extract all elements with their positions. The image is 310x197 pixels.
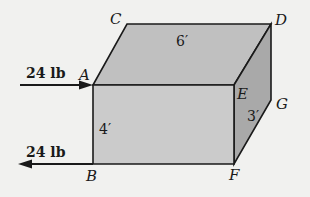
vertex-label-a: A xyxy=(77,66,90,84)
box-diagram: 24 lb 24 lb A C D E G F B 6′ 4′ 3′ xyxy=(0,0,310,197)
front-face xyxy=(93,85,234,164)
force-label-b: 24 lb xyxy=(26,144,66,160)
vertex-label-c: C xyxy=(110,10,122,28)
vertex-label-f: F xyxy=(228,166,240,184)
vertex-label-b: B xyxy=(85,167,97,185)
vertex-label-e: E xyxy=(236,85,248,103)
vertex-label-d: D xyxy=(274,11,287,29)
dimension-depth: 3′ xyxy=(247,108,259,124)
force-label-a: 24 lb xyxy=(26,65,66,81)
dimension-height: 4′ xyxy=(99,121,111,137)
force-arrow-b xyxy=(18,160,93,169)
vertex-label-g: G xyxy=(276,95,288,113)
dimension-length: 6′ xyxy=(176,33,188,49)
